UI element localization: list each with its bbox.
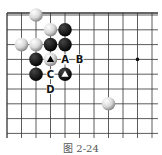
point-label-b: B: [76, 54, 84, 65]
point-label-c: C: [47, 69, 54, 80]
star-point: [136, 58, 140, 62]
go-board: ABCD: [0, 0, 162, 140]
white-stone: [29, 38, 43, 52]
white-stone: [29, 8, 43, 22]
point-label-a: A: [61, 54, 69, 65]
point-label-d: D: [46, 84, 54, 95]
white-stone: [44, 23, 58, 37]
black-stone: [58, 38, 72, 52]
white-stone: [15, 38, 29, 52]
figure-caption: 图 2-24: [0, 140, 162, 155]
black-stone: [29, 67, 43, 81]
black-stone: [44, 38, 58, 52]
star-points: [136, 58, 140, 62]
black-stone: [58, 23, 72, 37]
white-stone: [102, 97, 116, 111]
black-stone: [29, 53, 43, 67]
